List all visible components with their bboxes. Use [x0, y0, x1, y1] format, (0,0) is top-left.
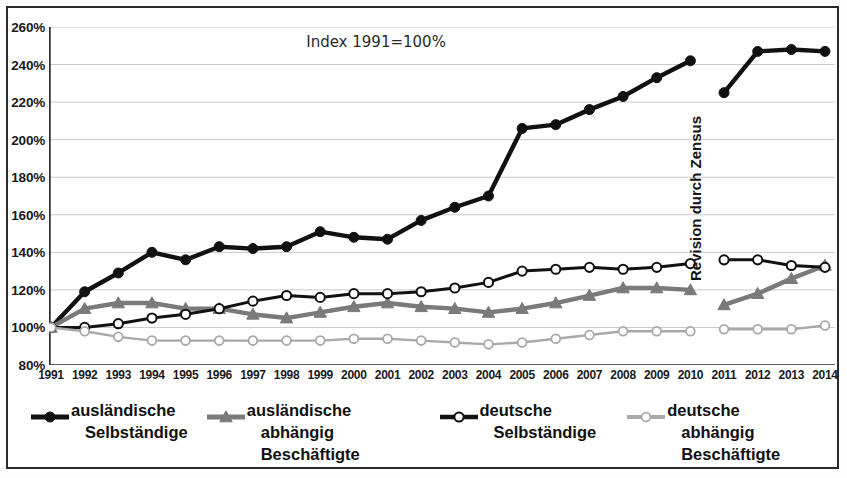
- plot-area: [49, 27, 835, 365]
- x-tick-label: 2002: [408, 368, 434, 382]
- x-tick-label: 2006: [543, 368, 569, 382]
- legend-label-line2: abhängig Beschäftigte: [667, 422, 825, 466]
- legend-label-line1: deutsche: [480, 401, 552, 419]
- x-tick-label: 1992: [72, 368, 98, 382]
- chart-legend: ausländischeSelbständigeausländischeabhä…: [8, 400, 825, 466]
- y-tick-label: 160%: [11, 207, 45, 222]
- x-tick-label: 2001: [375, 368, 401, 382]
- y-tick-label: 100%: [11, 320, 45, 335]
- open-circle-grey-icon: [626, 409, 666, 429]
- legend-label-line1: ausländische: [71, 401, 176, 419]
- x-tick-label: 2007: [577, 368, 603, 382]
- revision-annotation: Revision durch Zensus: [687, 116, 704, 281]
- y-tick-label: 140%: [11, 245, 45, 260]
- x-tick-label: 2003: [442, 368, 468, 382]
- legend-label-3: deutscheabhängig Beschäftigte: [667, 400, 825, 465]
- legend-label-line1: ausländische: [247, 401, 352, 419]
- legend-label-line2: Selbständige: [480, 422, 597, 444]
- series-1: [49, 259, 831, 332]
- open-circle-icon: [439, 409, 479, 429]
- x-tick-label: 1995: [173, 368, 199, 382]
- legend-label-2: deutscheSelbständige: [480, 400, 597, 444]
- filled-circle-icon: [30, 409, 70, 429]
- legend-item-2[interactable]: deutscheSelbständige: [439, 400, 597, 444]
- x-tick-label: 2011: [712, 368, 737, 382]
- index-annotation: Index 1991=100%: [306, 33, 446, 51]
- line-chart-canvas: [49, 27, 835, 365]
- legend-label-1: ausländischeabhängig Beschäftigte: [247, 400, 405, 465]
- x-tick-label: 2013: [779, 368, 805, 382]
- legend-label-0: ausländischeSelbständige: [71, 400, 188, 444]
- x-axis-tick-labels: 1991199219931994199519961997199819992000…: [0, 368, 847, 388]
- x-tick-label: 2012: [745, 368, 771, 382]
- x-tick-label: 1998: [274, 368, 300, 382]
- x-tick-label: 2014: [812, 368, 838, 382]
- x-tick-label: 1993: [106, 368, 132, 382]
- x-tick-label: 1999: [307, 368, 333, 382]
- x-tick-label: 2009: [644, 368, 670, 382]
- y-tick-label: 180%: [11, 170, 45, 185]
- filled-triangle-icon: [206, 409, 246, 429]
- x-tick-label: 2005: [509, 368, 535, 382]
- x-tick-label: 2004: [476, 368, 502, 382]
- legend-item-0[interactable]: ausländischeSelbständige: [30, 400, 188, 444]
- legend-item-3[interactable]: deutscheabhängig Beschäftigte: [626, 400, 825, 465]
- y-tick-label: 260%: [11, 20, 45, 35]
- y-tick-label: 220%: [11, 95, 45, 110]
- chart-screenshot: 80%100%120%140%160%180%200%220%240%260% …: [0, 0, 847, 478]
- x-tick-label: 2010: [678, 368, 704, 382]
- x-tick-label: 2008: [610, 368, 636, 382]
- legend-item-1[interactable]: ausländischeabhängig Beschäftigte: [206, 400, 405, 465]
- legend-label-line2: abhängig Beschäftigte: [247, 422, 405, 466]
- x-tick-label: 1994: [139, 368, 165, 382]
- legend-label-line1: deutsche: [667, 401, 739, 419]
- x-tick-label: 1997: [240, 368, 266, 382]
- legend-label-line2: Selbständige: [71, 422, 188, 444]
- y-tick-label: 200%: [11, 132, 45, 147]
- y-tick-label: 240%: [11, 57, 45, 72]
- series-3: [49, 321, 829, 349]
- x-tick-label: 1996: [207, 368, 233, 382]
- x-tick-label: 2000: [341, 368, 367, 382]
- y-axis-tick-labels: 80%100%120%140%160%180%200%220%240%260%: [0, 27, 45, 365]
- x-tick-label: 1991: [38, 368, 64, 382]
- series-2: [49, 255, 830, 332]
- y-tick-label: 120%: [11, 282, 45, 297]
